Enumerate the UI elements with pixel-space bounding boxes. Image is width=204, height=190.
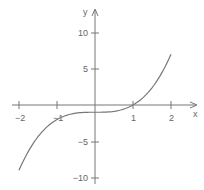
y-tick-label: 10	[78, 28, 88, 38]
y-tick-label: 5	[83, 64, 88, 74]
y-tick-label: −10	[73, 173, 88, 183]
chart: −2 −1 1 2 10 5 −5 −10 x y	[0, 0, 204, 190]
x-axis-label: x	[193, 109, 198, 119]
x-tick-label: −2	[15, 113, 25, 123]
x-tick-label: 2	[169, 113, 174, 123]
y-tick-label: −5	[78, 137, 88, 147]
x-tick-label: 1	[131, 113, 136, 123]
y-axis-label: y	[83, 7, 88, 17]
